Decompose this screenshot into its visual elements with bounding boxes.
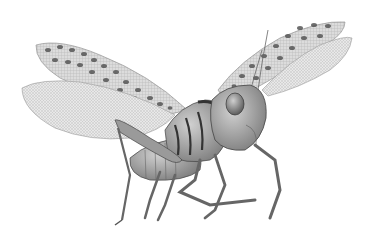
head [211,85,267,150]
locust-illustration [0,0,372,240]
compound-eye [226,93,244,115]
illustration-canvas [0,0,372,240]
